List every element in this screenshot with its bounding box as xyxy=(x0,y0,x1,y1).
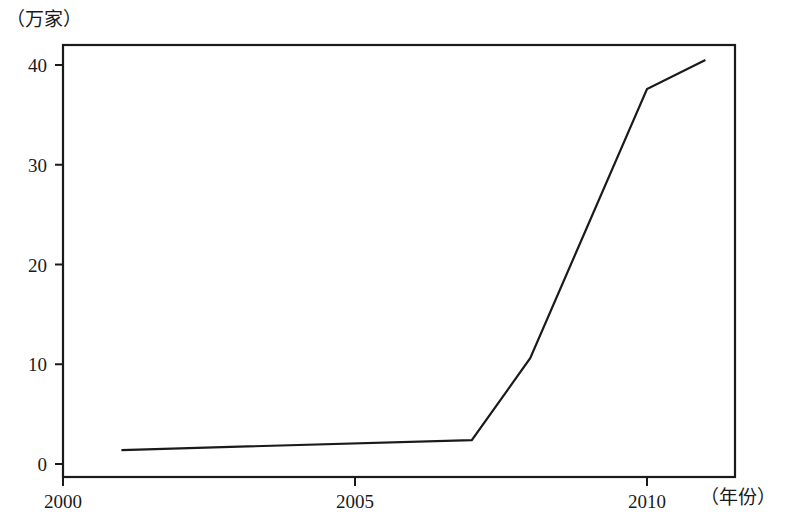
y-tick-label: 20 xyxy=(28,255,47,276)
data-series-line xyxy=(121,60,705,450)
chart-canvas: 010203040 200020052010 xyxy=(0,0,793,514)
y-tick-label: 30 xyxy=(28,155,47,176)
x-tick-label: 2005 xyxy=(336,491,374,512)
plot-frame xyxy=(63,45,735,477)
x-tick-label: 2000 xyxy=(44,491,82,512)
x-tick-label: 2010 xyxy=(628,491,666,512)
y-tick-label: 0 xyxy=(38,454,48,475)
line-chart: （万家） （年份） 010203040 200020052010 xyxy=(0,0,793,514)
y-tick-label: 40 xyxy=(28,55,47,76)
y-axis-ticks: 010203040 xyxy=(28,55,63,475)
series-polyline xyxy=(121,60,705,450)
x-axis-ticks: 200020052010 xyxy=(44,477,666,512)
y-tick-label: 10 xyxy=(28,354,47,375)
plot-border xyxy=(63,45,735,477)
